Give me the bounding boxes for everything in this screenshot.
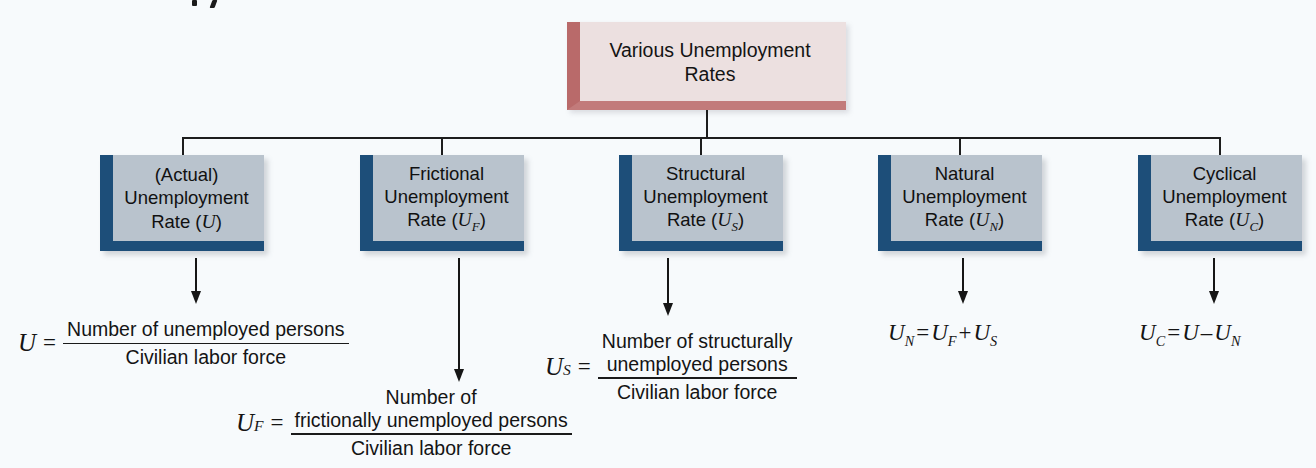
- node-frictional-label: Frictional Unemployment Rate (UF): [376, 163, 517, 235]
- node-actual-label: (Actual) Unemployment Rate (U): [116, 164, 257, 233]
- formula-frictional-fraction: Number of frictionally unemployed person…: [291, 386, 572, 459]
- identity-natural-unemployment-rate: UN=UF+US: [888, 320, 997, 350]
- connector-drop-frictional: [441, 137, 443, 156]
- identity-cyclical-equals: =: [1165, 320, 1182, 345]
- node-structural-label: Structural Unemployment Rate (US): [635, 163, 776, 235]
- identity-cyclical-term2: UN: [1214, 320, 1240, 345]
- identity-cyclical-term1: U: [1182, 320, 1199, 345]
- formula-structural-fraction: Number of structurally unemployed person…: [598, 330, 797, 403]
- formula-structural-denominator: Civilian labor force: [613, 379, 781, 404]
- identity-cyclical-unemployment-rate: UC=U–UN: [1139, 320, 1240, 350]
- node-natural-unemployment-rate[interactable]: Natural Unemployment Rate (UN): [878, 155, 1042, 251]
- formula-actual-lhs: U: [18, 329, 43, 357]
- connector-drop-actual: [182, 137, 184, 156]
- node-structural-unemployment-rate[interactable]: Structural Unemployment Rate (US): [619, 155, 783, 251]
- identity-cyclical-operator: –: [1199, 320, 1215, 345]
- identity-natural-lhs: UN: [888, 320, 914, 345]
- node-cyclical-label: Cyclical Unemployment Rate (UC): [1154, 163, 1295, 235]
- formula-actual-equals: =: [43, 330, 63, 356]
- root-node-label: Various Unemployment Rates: [609, 39, 810, 87]
- node-natural-label: Natural Unemployment Rate (UN): [894, 163, 1035, 235]
- diagram-canvas: Various Unemployment Rates (Actual) Unem…: [0, 0, 1316, 468]
- formula-actual-unemployment-rate: U = Number of unemployed persons Civilia…: [18, 318, 349, 369]
- formula-actual-numerator: Number of unemployed persons: [63, 318, 349, 343]
- node-cyclical-unemployment-rate[interactable]: Cyclical Unemployment Rate (UC): [1138, 155, 1302, 251]
- identity-natural-term2: US: [973, 320, 997, 345]
- identity-natural-operator: +: [956, 320, 973, 345]
- formula-frictional-equals: =: [271, 410, 291, 436]
- identity-natural-equals: =: [914, 320, 931, 345]
- formula-actual-fraction: Number of unemployed persons Civilian la…: [63, 318, 349, 369]
- connector-drop-natural: [959, 137, 961, 156]
- root-node-various-unemployment-rates[interactable]: Various Unemployment Rates: [567, 22, 846, 110]
- formula-structural-equals: =: [578, 354, 598, 380]
- connector-drop-cyclical: [1219, 137, 1221, 156]
- node-frictional-unemployment-rate[interactable]: Frictional Unemployment Rate (UF): [360, 155, 524, 251]
- formula-structural-numerator: Number of structurally unemployed person…: [598, 330, 797, 377]
- cropped-heading-stroke-1: [192, 0, 197, 6]
- connector-root-stem: [706, 110, 708, 138]
- formula-structural-lhs: US: [545, 353, 578, 381]
- formula-actual-denominator: Civilian labor force: [122, 344, 290, 369]
- identity-cyclical-lhs: UC: [1139, 320, 1165, 345]
- node-actual-unemployment-rate[interactable]: (Actual) Unemployment Rate (U): [100, 155, 264, 251]
- formula-structural-unemployment-rate: US = Number of structurally unemployed p…: [545, 330, 797, 403]
- formula-frictional-numerator: Number of frictionally unemployed person…: [291, 386, 572, 433]
- cropped-heading-stroke-2: [210, 0, 218, 8]
- identity-natural-term1: UF: [931, 320, 956, 345]
- formula-frictional-unemployment-rate: UF = Number of frictionally unemployed p…: [236, 386, 572, 459]
- formula-frictional-denominator: Civilian labor force: [347, 435, 515, 460]
- connector-drop-structural: [700, 137, 702, 156]
- formula-frictional-lhs: UF: [236, 409, 271, 437]
